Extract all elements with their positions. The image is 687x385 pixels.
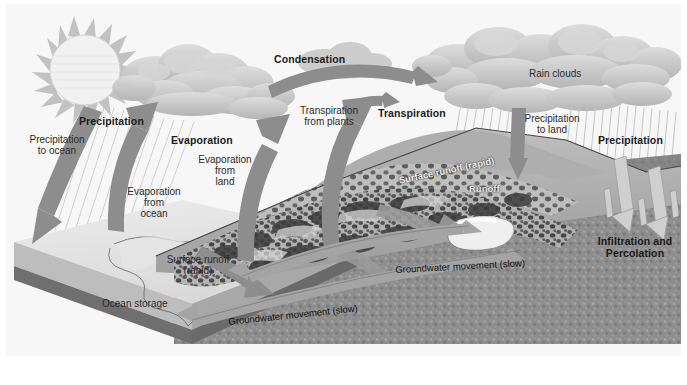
water-cycle-diagram: Precipitation to ocean Precipitation Eva… (0, 0, 687, 385)
label-precipitation-to-land: Precipitation to land (514, 113, 590, 135)
label-condensation: Condensation (274, 54, 345, 66)
label-precipitation-to-ocean: Precipitation to ocean (14, 134, 100, 156)
diagram-scene: Precipitation to ocean Precipitation Eva… (6, 4, 681, 356)
label-evaporation-from-land: Evaporation from land (189, 154, 261, 188)
label-evaporation-from-ocean: Evaporation from ocean (118, 186, 190, 220)
label-surface-runoff-rapid-ocean: Surface runoff (rapid) (154, 254, 242, 276)
label-ocean-storage: Ocean storage (102, 298, 168, 309)
label-precipitation-left: Precipitation (79, 116, 144, 128)
label-rain-clouds: Rain clouds (529, 68, 581, 79)
label-precipitation-right: Precipitation (598, 135, 663, 147)
label-runoff: Runoff (469, 184, 500, 195)
label-evaporation: Evaporation (171, 135, 233, 147)
label-transpiration: Transpiration (378, 108, 446, 120)
label-transpiration-from-plants: Transpiration from plants (287, 105, 371, 127)
label-infiltration-and-percolation: Infiltration and Percolation (582, 236, 681, 260)
